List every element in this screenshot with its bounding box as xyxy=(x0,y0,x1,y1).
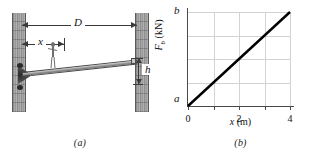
person-icon xyxy=(47,42,59,68)
plot-area: 0 2 4 xyxy=(188,12,290,106)
x-axis-label: x (m) xyxy=(160,116,321,127)
person-leg-left-icon xyxy=(51,57,53,68)
beam xyxy=(22,59,138,76)
dimension-extension-bottom xyxy=(133,84,143,85)
x-axis xyxy=(187,106,294,107)
dimension-arrow-height-up xyxy=(136,58,142,63)
dimension-arrow-span-right xyxy=(131,22,137,28)
y-axis-label-unit: (kN) xyxy=(153,20,164,39)
support-bolt-bottom-icon xyxy=(17,85,23,90)
y-axis-label: Fb (kN) xyxy=(153,20,167,51)
dimension-label-height: h xyxy=(142,64,154,75)
y-axis-endpoint-label-top: b xyxy=(174,4,180,16)
x-axis-tick xyxy=(290,106,291,110)
panel-b-chart: 0 2 4 b a Fb (kN) x (m) (b) xyxy=(160,0,321,154)
dimension-arrow-position-left xyxy=(22,41,28,47)
dimension-arrow-height-down xyxy=(136,79,142,84)
gridline-vertical xyxy=(290,12,291,106)
y-axis-label-symbol: F xyxy=(153,44,164,50)
figure-container: D x h (a) xyxy=(0,0,321,154)
dimension-tick-position xyxy=(64,38,65,51)
panel-a-caption: (a) xyxy=(0,137,160,148)
dimension-arrow-span-left xyxy=(22,22,28,28)
dimension-label-span: D xyxy=(71,17,85,28)
panel-a-beam-diagram: D x h (a) xyxy=(0,0,160,154)
dimension-label-position: x xyxy=(35,36,46,47)
panel-b-caption: (b) xyxy=(160,137,321,148)
x-axis-tick xyxy=(265,106,266,110)
y-axis-label-subscript: b xyxy=(159,41,167,45)
person-leg-right-icon xyxy=(54,57,56,68)
series-line-chart xyxy=(188,12,290,106)
x-axis-tick xyxy=(214,106,215,110)
support-bolt-top-icon xyxy=(17,63,23,68)
x-axis-tick xyxy=(239,106,240,110)
y-axis-endpoint-label-bottom: a xyxy=(174,92,180,104)
